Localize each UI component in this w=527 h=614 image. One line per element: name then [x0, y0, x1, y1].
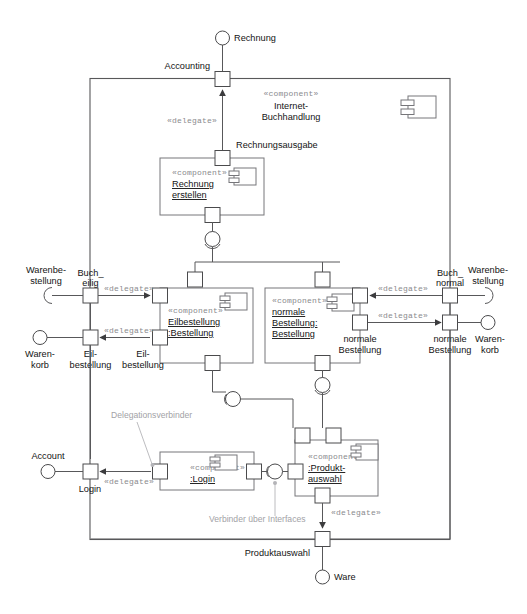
interface-ball-eilbestellung-out [226, 392, 241, 407]
interface-warenkorb-rechts-label-line1: Waren- [475, 334, 505, 344]
port-produktauswahl-unten-label: Produktauswahl [245, 548, 310, 558]
interface-warenkorb-links-label-line2: korb [31, 360, 49, 370]
diagram-canvas: «component» Internet- Buchhandlung Rechn… [0, 0, 527, 614]
component-normale-bestellung-name-line3: Bestellung [272, 329, 315, 339]
annotation-dot-verbinder [273, 481, 277, 485]
port-produktauswahl-unten [315, 532, 330, 547]
port-rechnungsausgabe [215, 151, 230, 166]
port-eilbestellung-innen-label-line2: bestellung [122, 360, 164, 370]
port-accounting [215, 72, 230, 87]
interface-warenkorb-rechts-label-line2: korb [481, 345, 499, 355]
component-produktauswahl-name-line1: :Produkt- [308, 463, 345, 473]
annotation-delegationsverbinder: Delegationsverbinder [111, 410, 192, 420]
port-rechnung-erstellen-bottom [205, 208, 220, 223]
port-normale-bestellung-bottom [315, 356, 330, 371]
port-eilbestellung-inner-top [153, 288, 168, 303]
component-normale-bestellung-name-line2: Bestellung: [272, 318, 317, 328]
port-produktauswahl-top-left [295, 428, 310, 443]
port-buch-eilig-label-line2: eilig [82, 278, 98, 288]
port-eilbestellung-aussen [83, 330, 98, 345]
interface-ware-label: Ware [334, 572, 356, 582]
port-rechnungsausgabe-label: Rechnungsausgabe [236, 140, 318, 150]
interface-warenkorb-links-label-line1: Waren- [25, 349, 55, 359]
port-normale-bestellung-inner-bottom [353, 315, 368, 330]
delegate-label-normale-bestellung: «delegate» [378, 311, 428, 320]
port-buch-normal-label-line1: Buch_ [437, 268, 464, 278]
uml-component-diagram: «component» Internet- Buchhandlung Rechn… [0, 0, 527, 614]
component-normale-bestellung-name-line1: normale [272, 307, 305, 317]
port-login-aussen-label: Login [79, 484, 101, 494]
port-accounting-label: Accounting [165, 61, 210, 71]
port-produktauswahl-left [288, 464, 303, 479]
interface-ball-login-produktauswahl [268, 464, 283, 479]
port-login-aussen [83, 464, 98, 479]
interface-warenkorb-links-lollipop [33, 331, 47, 345]
port-buch-normal [443, 288, 458, 303]
interface-ball-normale-bestellung [315, 378, 330, 393]
interface-account-lollipop [41, 465, 55, 479]
delegate-label-login: «delegate» [104, 477, 154, 486]
interface-warenbestellung-rechts-label-line1: Warenbe- [468, 265, 508, 275]
annotation-dot-delegationsverbinder [151, 463, 155, 467]
port-buch-normal-label-line2: normal [436, 278, 464, 288]
interface-ball-rechnung-erstellen [205, 232, 220, 247]
delegate-label-eilbestellung: «delegate» [104, 326, 154, 335]
component-rechnung-erstellen-stereotype: «component» [172, 168, 227, 177]
port-buch-eilig-label-line1: Buch_ [77, 268, 104, 278]
interface-required-warenbestellung-rechts [485, 288, 493, 304]
interface-account-label: Account [31, 451, 65, 461]
port-eilbestellung-top [188, 272, 203, 287]
delegate-label-buch-normal: «delegate» [378, 284, 428, 293]
port-normale-bestellung-aussen [443, 315, 458, 330]
component-rechnung-erstellen-name-line1: Rechnung [172, 179, 214, 189]
component-rechnung-erstellen-name-line2: erstellen [172, 190, 207, 200]
component-login-name-line1: :Login [190, 474, 215, 484]
interface-warenkorb-rechts-lollipop [481, 316, 495, 330]
component-produktauswahl-name-line2: auswahl [308, 474, 342, 484]
interface-warenbestellung-links-label-line1: Warenbe- [26, 265, 66, 275]
port-normale-bestellung-inner-top [353, 288, 368, 303]
port-eilbestellung-inner-bottom [153, 330, 168, 345]
interface-ware-lollipop [316, 570, 330, 584]
outer-component-stereotype: «component» [263, 89, 318, 98]
interface-required-warenbestellung-links [44, 288, 52, 304]
delegate-label-buch-eilig: «delegate» [104, 284, 154, 293]
port-normale-bestellung-innen-label-line1: normale [343, 334, 376, 344]
delegate-label-accounting: «delegate» [167, 116, 217, 125]
port-produktauswahl-bottom [315, 488, 330, 503]
component-eilbestellung-stereotype: «component» [168, 306, 223, 315]
interface-rechnung-lollipop [216, 31, 230, 45]
port-normale-bestellung-innen-label-line2: Bestellung [339, 345, 382, 355]
port-login-right [247, 464, 262, 479]
port-normale-bestellung-top [315, 272, 330, 287]
port-login-inner [153, 464, 168, 479]
interface-warenbestellung-rechts-label-line2: stellung [472, 276, 504, 286]
port-eilbestellung-bottom [205, 356, 220, 371]
interface-warenbestellung-links-label-line2: stellung [30, 276, 62, 286]
component-eilbestellung-name-line2: :Bestellung [168, 328, 213, 338]
component-eilbestellung-name-line1: Eilbestellung [168, 317, 220, 327]
interface-rechnung-label: Rechnung [234, 33, 276, 43]
port-buch-eilig [83, 288, 98, 303]
outer-component-name-line1: Internet- [274, 101, 308, 111]
port-eilbestellung-innen-label-line1: Eil- [136, 349, 149, 359]
component-normale-bestellung-stereotype: «component» [272, 296, 327, 305]
outer-component-name-line2: Buchhandlung [262, 112, 321, 122]
port-produktauswahl-top-right [326, 428, 341, 443]
delegate-label-produktauswahl: «delegate» [331, 508, 381, 517]
annotation-verbinder-ueber-interfaces: Verbinder über Interfaces [209, 514, 306, 524]
